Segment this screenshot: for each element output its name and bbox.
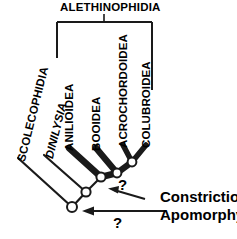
taxon-label-anilioidea: ANILIOIDEA <box>64 84 76 151</box>
taxon-label-booidea: BOOIDEA <box>91 97 103 151</box>
clade-bracket-label: ALETHINOPHIDIA <box>60 2 161 14</box>
cladogram-figure: ALETHINOPHIDIA SCOLECOPHIDIA DINILYSIA A… <box>0 0 237 239</box>
clade-bracket <box>57 14 152 90</box>
legend-line-apomorphy: Apomorphy <box>160 207 237 222</box>
question-mark-lower: ? <box>113 214 122 231</box>
legend-line-constriction: Constriction <box>160 189 237 204</box>
taxon-label-colubroidea: COLUBROIDEA <box>141 61 153 148</box>
taxon-label-acrochordoidea: ACROCHORDOIDEA <box>118 34 130 148</box>
question-mark-upper: ? <box>118 176 127 193</box>
